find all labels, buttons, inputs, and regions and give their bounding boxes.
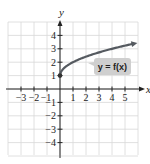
y-tick-label: −3 [45,124,56,135]
y-tick-label: −4 [45,137,56,148]
x-tick-label: 4 [110,92,115,103]
y-tick-label: −2 [45,110,56,121]
curve-arrow-icon [131,41,137,47]
x-tick-label: 5 [123,92,128,103]
x-tick-label: 2 [84,92,89,103]
y-tick-label: 1 [51,70,56,81]
y-tick-label: −1 [45,97,56,108]
axes [6,20,145,158]
x-tick-label: −2 [29,92,40,103]
x-tick-label: 3 [97,92,102,103]
y-tick-label: 3 [51,43,56,54]
callout-label: y = f(x) [88,58,131,75]
y-tick-label: 2 [51,57,56,68]
x-axis-arrow-icon [139,87,145,92]
function-graph: −3−2−112345−4−3−2−11234 y = f(x) x y [0,0,150,164]
y-axis-label: y [58,6,64,18]
x-tick-label: −3 [16,92,27,103]
x-axis-label: x [145,83,150,95]
y-axis-arrow-icon [58,20,63,26]
y-tick-label: 4 [51,30,56,41]
callout-text: y = f(x) [98,62,127,72]
start-point-dot [58,73,63,78]
x-tick-label: 1 [71,92,76,103]
